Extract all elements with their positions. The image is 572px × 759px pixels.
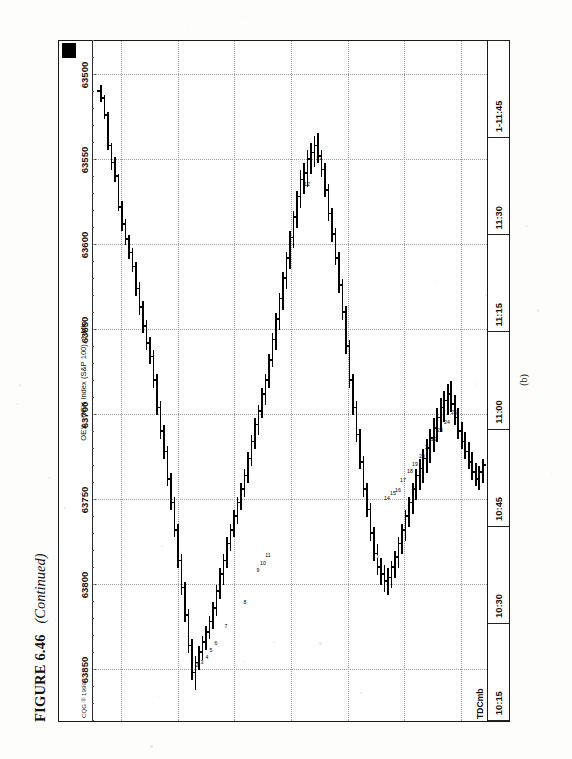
ohlc-open-tick [374,552,377,554]
time-separator [488,331,509,332]
ohlc-open-tick [332,233,335,235]
ohlc-range [405,510,407,541]
bar-annotation: 13 [316,155,322,161]
ohlc-open-tick [160,430,163,432]
ohlc-open-tick [237,501,240,503]
ohlc-range [363,455,365,496]
ohlc-open-tick [416,474,419,476]
ohlc-open-tick [132,265,135,267]
ohlc-range [265,374,267,405]
ohlc-open-tick [244,474,247,476]
ohlc-open-tick [398,542,401,544]
figure-caption: FIGURE 6.46 (Continued) [32,553,49,722]
bar-annotation: 12 [304,181,310,187]
ohlc-open-tick [465,450,468,452]
ohlc-open-tick [279,297,282,299]
ohlc-range [247,452,249,483]
ohlc-range [174,496,176,537]
bar-annotation: 5 [209,646,212,652]
price-axis-label: 63700 [79,401,90,428]
ohlc-range [314,136,316,167]
plot-area[interactable]: 1234567891011121314151617181920212223242… [93,41,487,721]
ohlc-open-tick [384,580,387,582]
ohlc-range [310,143,312,174]
ohlc-open-tick [188,644,191,646]
rotated-figure-wrapper: FIGURE 6.46 (Continued) CQG ® 1999 OEX -… [26,30,546,730]
time-separator [488,137,509,138]
ohlc-range [226,537,228,568]
ohlc-range [205,625,207,649]
ohlc-range [300,170,302,207]
ohlc-open-tick [328,212,331,214]
figure-continued: (Continued) [32,553,48,623]
ohlc-open-tick [475,478,478,480]
ohlc-range [475,462,477,486]
ohlc-range [366,483,368,517]
ohlc-range [167,445,169,486]
ohlc-open-tick [472,471,475,473]
ohlc-range [419,459,421,490]
ohlc-open-tick [226,542,229,544]
ohlc-range [328,183,330,220]
time-axis-label: 11:30 [493,206,504,229]
bar-annotation: 9 [256,566,259,572]
ohlc-range [398,537,400,568]
ohlc-range [471,452,473,479]
ohlc-open-tick [377,566,380,568]
ohlc-open-tick [381,573,384,575]
paper-speckle [551,473,552,474]
ohlc-range [153,350,155,387]
ohlc-range [223,554,225,585]
ohlc-range [464,432,466,459]
ohlc-open-tick [202,641,205,643]
ohlc-open-tick [163,450,166,452]
ohlc-open-tick [402,529,405,531]
ohlc-open-tick [367,508,370,510]
ohlc-open-tick [149,355,152,357]
ohlc-range [114,156,116,182]
time-separator [488,720,509,721]
bar-annotation: 17 [400,476,406,482]
ohlc-range [412,483,414,514]
ohlc-range [258,404,260,435]
ohlc-open-tick [283,277,286,279]
price-axis-label: 63800 [79,571,90,598]
ohlc-open-tick [353,406,356,408]
ohlc-open-tick [125,238,128,240]
ohlc-open-tick [156,406,159,408]
ohlc-chart[interactable]: CQG ® 1999 OEX - OEX Index (S&P 100), 1 … [58,40,510,722]
ohlc-range [139,282,141,314]
ohlc-range [443,391,445,422]
ohlc-open-tick [255,423,258,425]
ohlc-open-tick [297,195,300,197]
bar-annotation: 20 [420,453,426,459]
ohlc-open-tick [461,440,464,442]
ohlc-range [401,523,403,554]
ohlc-open-tick [240,488,243,490]
ohlc-open-tick [342,311,345,313]
ohlc-range [121,200,123,231]
time-axis-label: 11:00 [493,400,504,423]
bar-annotation: 21 [425,444,431,450]
price-gridline [93,159,487,160]
price-axis-label: 63850 [79,656,90,683]
figure-number: FIGURE 6.46 [32,634,48,722]
ohlc-open-tick [233,515,236,517]
bar-annotation: 16 [395,487,401,493]
ohlc-open-tick [170,501,173,503]
ohlc-range [377,544,379,575]
time-gridline [404,41,405,721]
ohlc-range [219,568,221,599]
ohlc-open-tick [395,556,398,558]
ohlc-open-tick [412,488,415,490]
time-gridline [234,41,235,721]
ohlc-open-tick [272,338,275,340]
copyright-label: CQG ® 1999 [80,682,87,718]
ohlc-open-tick [139,306,142,308]
ohlc-open-tick [363,488,366,490]
ohlc-open-tick [293,216,296,218]
paper-speckle [17,403,18,404]
ohlc-open-tick [479,471,482,473]
ohlc-open-tick [181,586,184,588]
ohlc-range [146,319,148,350]
